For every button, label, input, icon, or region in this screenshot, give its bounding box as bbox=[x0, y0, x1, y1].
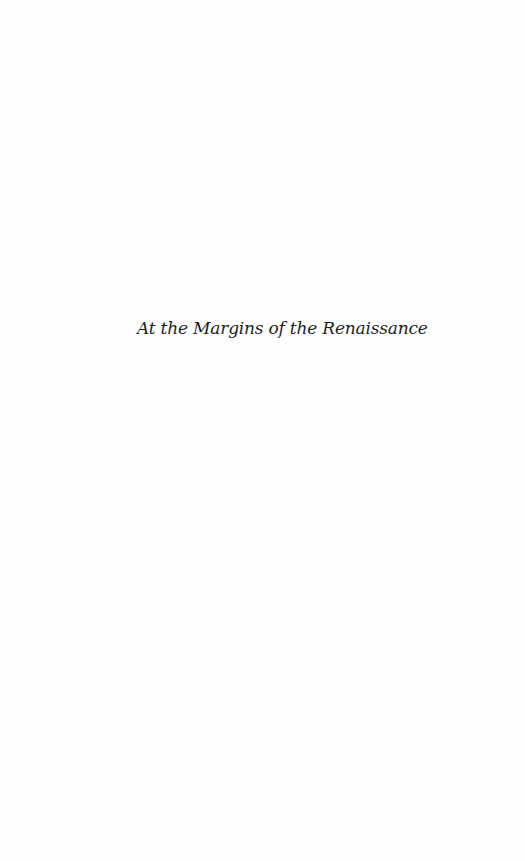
book-page: At the Margins of the Renaissance bbox=[0, 0, 525, 861]
half-title: At the Margins of the Renaissance bbox=[137, 316, 428, 340]
